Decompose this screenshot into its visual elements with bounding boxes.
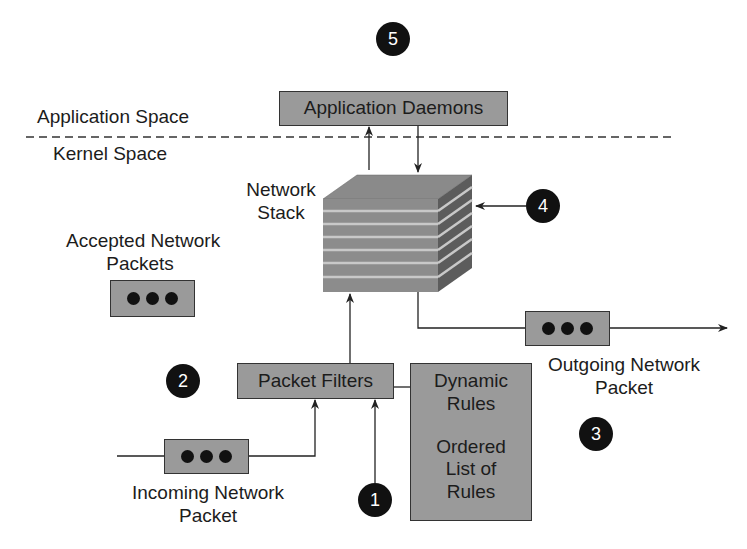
- packet-dot-icon: [127, 292, 140, 305]
- packet-dot-icon: [219, 450, 232, 463]
- outgoing-packet-label-line2: Packet: [535, 377, 713, 400]
- rules-box: Dynamic Rules Ordered List of Rules: [410, 363, 532, 521]
- network-stack-label-line1: Network: [241, 179, 321, 202]
- incoming-packet-label: Incoming Network Packet: [118, 482, 298, 528]
- arrow-incoming-to-filters: [249, 400, 315, 456]
- outgoing-packet-label-line1: Outgoing Network: [535, 354, 713, 377]
- packet-dot-icon: [561, 322, 574, 335]
- ordered-rules-line3: Rules: [447, 481, 496, 504]
- step-badge-3: 3: [579, 417, 613, 451]
- kernel-space-label: Kernel Space: [53, 143, 167, 166]
- packet-dot-icon: [580, 322, 593, 335]
- outgoing-packet: [525, 311, 610, 346]
- application-daemons-box: Application Daemons: [279, 91, 508, 126]
- dynamic-rules-line2: Rules: [447, 393, 496, 416]
- outgoing-packet-label: Outgoing Network Packet: [535, 354, 713, 400]
- step-badge-4: 4: [526, 189, 560, 223]
- application-space-label: Application Space: [37, 106, 189, 129]
- ordered-rules-line1: Ordered: [436, 436, 506, 459]
- application-daemons-label: Application Daemons: [304, 97, 484, 120]
- packet-dot-icon: [542, 322, 555, 335]
- accepted-packets-label: Accepted Network Packets: [66, 230, 214, 276]
- packet-filters-label: Packet Filters: [258, 370, 373, 393]
- accepted-packets-label-line1: Accepted Network: [66, 230, 214, 253]
- network-stack-label-line2: Stack: [241, 202, 321, 225]
- packet-dot-icon: [146, 292, 159, 305]
- packet-filters-box: Packet Filters: [237, 363, 394, 399]
- dynamic-rules-line1: Dynamic: [434, 370, 508, 393]
- step-badge-1: 1: [358, 483, 392, 517]
- step-badge-2: 2: [166, 364, 200, 398]
- line-stack-to-outgoing: [418, 292, 525, 328]
- incoming-packet-label-line1: Incoming Network: [118, 482, 298, 505]
- network-stack-icon: [323, 175, 472, 292]
- ordered-rules-line2: List of: [446, 458, 497, 481]
- packet-dot-icon: [200, 450, 213, 463]
- accepted-packets-label-line2: Packets: [66, 253, 214, 276]
- accepted-packet: [110, 280, 195, 317]
- step-badge-5: 5: [376, 22, 410, 56]
- packet-dot-icon: [165, 292, 178, 305]
- network-stack-label: Network Stack: [241, 179, 321, 225]
- incoming-packet-label-line2: Packet: [118, 505, 298, 528]
- packet-dot-icon: [181, 450, 194, 463]
- incoming-packet: [164, 439, 249, 474]
